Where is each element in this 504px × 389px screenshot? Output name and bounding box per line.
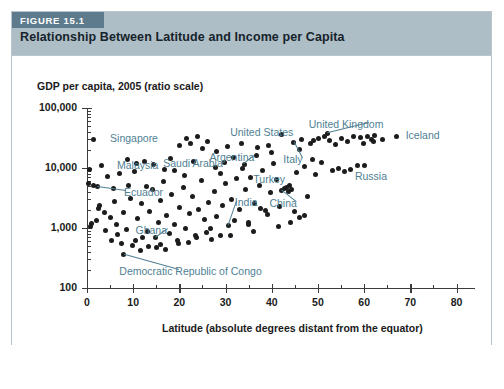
data-point [362, 163, 367, 168]
data-point [182, 173, 187, 178]
data-point [124, 227, 129, 232]
data-point [220, 203, 225, 208]
data-point [218, 233, 223, 238]
data-point [271, 161, 276, 166]
data-point [330, 168, 335, 173]
data-point [177, 143, 182, 148]
data-point [289, 187, 294, 192]
y-axis-minor-tick [87, 132, 91, 133]
x-axis-minor-tick [249, 285, 250, 289]
y-axis-minor-tick [87, 199, 91, 200]
x-axis-tick [364, 284, 365, 293]
data-point [266, 143, 271, 148]
data-point [348, 167, 353, 172]
data-point [209, 237, 214, 242]
data-point [258, 206, 263, 211]
data-point [183, 226, 188, 231]
data-point [237, 207, 242, 212]
data-point [372, 133, 377, 138]
x-axis-tick [226, 284, 227, 293]
data-point [313, 172, 318, 177]
y-axis-title: GDP per capita, 2005 (ratio scale) [37, 80, 203, 92]
x-axis-minor-tick [433, 285, 434, 289]
data-point [105, 174, 110, 179]
figure-number-badge: FIGURE 15.1 [12, 12, 104, 28]
y-axis-minor-tick [87, 111, 91, 112]
figure-header-band: FIGURE 15.1 Relationship Between Latitud… [12, 12, 491, 55]
data-point [339, 136, 344, 141]
x-axis-tick [457, 284, 458, 293]
chart-plot-region: GDP per capita, 2005 (ratio scale) Latit… [12, 56, 491, 345]
y-axis-minor-tick [87, 114, 91, 115]
data-point [146, 244, 151, 249]
data-point [310, 157, 315, 162]
data-point [194, 235, 199, 240]
data-point [177, 205, 182, 210]
country-label: Turkey [253, 173, 285, 185]
data-point [139, 201, 144, 206]
data-point [319, 160, 324, 165]
x-axis-tick [133, 284, 134, 293]
data-point [135, 216, 140, 221]
y-axis-minor-tick [87, 210, 91, 211]
data-point [138, 248, 143, 253]
data-point [108, 215, 113, 220]
data-point [115, 232, 120, 237]
data-point [114, 222, 119, 227]
data-point [380, 137, 385, 142]
data-point [102, 210, 107, 215]
data-point [294, 170, 299, 175]
data-point [276, 224, 281, 229]
data-point [202, 217, 207, 222]
data-point [109, 238, 114, 243]
data-point [214, 214, 219, 219]
x-axis-tick [410, 284, 411, 293]
data-point [94, 218, 99, 223]
y-axis-tick [82, 108, 92, 109]
data-point [223, 181, 228, 186]
data-point [228, 233, 233, 238]
data-point [243, 187, 248, 192]
data-point [196, 207, 201, 212]
data-point [161, 179, 166, 184]
data-point [361, 141, 366, 146]
data-point [218, 171, 223, 176]
data-point [154, 245, 159, 250]
country-label: Singapore [110, 132, 158, 144]
x-axis-tick-label: 50 [298, 296, 338, 308]
x-axis-minor-tick [341, 285, 342, 289]
data-point [167, 231, 172, 236]
data-point [195, 134, 200, 139]
x-axis-tick-label: 70 [390, 296, 430, 308]
x-axis-minor-tick [110, 285, 111, 289]
data-point [163, 247, 168, 252]
y-axis-minor-tick [87, 126, 91, 127]
y-axis-minor-tick [87, 174, 91, 175]
data-point [188, 141, 193, 146]
data-point [333, 142, 338, 147]
y-axis-tick-label: 1,000 [12, 221, 77, 233]
data-point [112, 199, 117, 204]
y-axis-tick-label: 10,000 [12, 161, 77, 173]
data-point [311, 138, 316, 143]
data-point [121, 210, 126, 215]
data-point [206, 200, 211, 205]
data-point [186, 240, 191, 245]
data-point [87, 167, 92, 172]
x-axis-tick-label: 80 [437, 296, 477, 308]
x-axis-tick [179, 284, 180, 293]
data-point [251, 229, 256, 234]
data-point [336, 166, 341, 171]
data-point [169, 192, 174, 197]
y-axis-tick-label: 100,000 [12, 101, 77, 113]
data-point [254, 153, 259, 158]
data-point [140, 235, 145, 240]
data-point [158, 242, 163, 247]
data-point [239, 141, 244, 146]
data-point [268, 190, 273, 195]
data-point [351, 134, 356, 139]
data-point [190, 194, 195, 199]
x-axis-minor-tick [387, 285, 388, 289]
data-point [234, 176, 239, 181]
country-label: United States [230, 126, 293, 138]
